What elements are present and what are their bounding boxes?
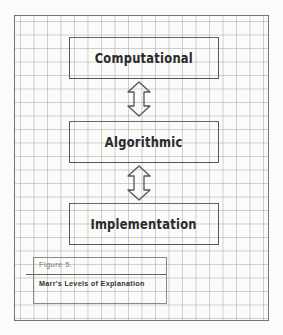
- figure-title: Marr's Levels of Explanation: [39, 279, 145, 288]
- level-label: Implementation: [91, 216, 197, 232]
- figure-number: Figure 5.: [39, 260, 72, 269]
- level-box-algorithmic: Algorithmic: [69, 121, 219, 163]
- double-arrow-icon: [126, 81, 152, 117]
- level-box-implementation: Implementation: [69, 203, 219, 245]
- level-label: Computational: [95, 50, 193, 66]
- double-arrow-icon: [126, 165, 152, 201]
- level-label: Algorithmic: [105, 134, 183, 150]
- level-box-computational: Computational: [69, 37, 219, 79]
- figure-caption: Figure 5. Marr's Levels of Explanation: [33, 257, 167, 304]
- caption-divider: [26, 274, 166, 275]
